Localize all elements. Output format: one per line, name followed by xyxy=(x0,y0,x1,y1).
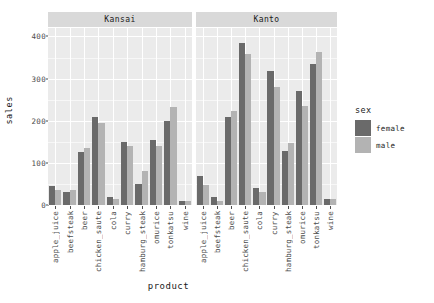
bar xyxy=(170,107,176,205)
bar xyxy=(231,111,237,205)
x-tick-label: tonkatsu xyxy=(312,211,321,283)
bar xyxy=(245,54,251,205)
bar xyxy=(217,201,223,205)
x-tick-mark xyxy=(55,206,56,209)
x-tick-mark xyxy=(288,206,289,209)
legend-swatch-male xyxy=(355,137,371,153)
legend-title: sex xyxy=(355,105,405,115)
x-tick-mark xyxy=(156,206,157,209)
x-tick-label: beer xyxy=(80,211,89,283)
chart-root: sales product 0100200300400 Kansai Kanto… xyxy=(0,0,434,303)
x-tick-label: tonkatsu xyxy=(166,211,175,283)
bar xyxy=(156,146,162,205)
x-tick-mark xyxy=(302,206,303,209)
panel-kansai xyxy=(48,28,192,205)
x-tick-mark xyxy=(185,206,186,209)
bar xyxy=(84,148,90,205)
x-tick-label: chicken_saute xyxy=(94,211,103,283)
y-tick-label: 400 xyxy=(12,32,46,41)
x-tick-label: curry xyxy=(123,211,132,283)
x-tick-mark xyxy=(231,206,232,209)
bar xyxy=(274,87,280,205)
x-tick-label: wine xyxy=(181,211,190,283)
facet-strip-label: Kanto xyxy=(253,15,279,24)
x-tick-label: cola xyxy=(109,211,118,283)
x-tick-label: hamburg_steak xyxy=(284,211,293,283)
facet-strip-label: Kansai xyxy=(104,15,135,24)
bar-group-container xyxy=(196,28,337,205)
x-tick-label: beefsteak xyxy=(213,211,222,283)
x-tick-label: omurice xyxy=(152,211,161,283)
x-tick-label: chicken_saute xyxy=(241,211,250,283)
x-tick-label: apple_juice xyxy=(199,211,208,283)
x-tick-mark xyxy=(245,206,246,209)
x-tick-mark xyxy=(113,206,114,209)
x-tick-mark xyxy=(217,206,218,209)
x-tick-mark xyxy=(127,206,128,209)
x-tick-mark xyxy=(142,206,143,209)
x-tick-label: beer xyxy=(227,211,236,283)
x-tick-mark xyxy=(84,206,85,209)
x-tick-label: omurice xyxy=(298,211,307,283)
x-tick-mark xyxy=(259,206,260,209)
x-tick-label: curry xyxy=(270,211,279,283)
y-tick-label: 300 xyxy=(12,74,46,83)
bar xyxy=(127,146,133,205)
legend-label-male: male xyxy=(376,141,395,150)
legend-swatch-female xyxy=(355,120,371,136)
facet-strip-kansai: Kansai xyxy=(48,12,192,27)
y-tick-label: 0 xyxy=(12,201,46,210)
y-tick-label: 100 xyxy=(12,158,46,167)
legend-item-male[interactable]: male xyxy=(355,137,405,153)
y-tick-label: 200 xyxy=(12,116,46,125)
bar xyxy=(288,143,294,205)
x-tick-label: hamburg_steak xyxy=(138,211,147,283)
legend: sex female male xyxy=(355,105,405,154)
bar xyxy=(55,190,61,205)
bar xyxy=(203,185,209,205)
x-tick-label: wine xyxy=(326,211,335,283)
x-tick-label: cola xyxy=(255,211,264,283)
bar xyxy=(330,199,336,205)
bar xyxy=(316,52,322,205)
legend-item-female[interactable]: female xyxy=(355,120,405,136)
y-axis-ticks: 0100200300400 xyxy=(8,0,46,303)
x-tick-mark xyxy=(170,206,171,209)
x-tick-mark xyxy=(203,206,204,209)
x-tick-label: beefsteak xyxy=(66,211,75,283)
bar xyxy=(259,192,265,205)
panel-kanto xyxy=(196,28,337,205)
x-tick-label: apple_juice xyxy=(51,211,60,283)
bar xyxy=(142,171,148,205)
bar xyxy=(98,123,104,205)
x-tick-mark xyxy=(330,206,331,209)
x-tick-mark xyxy=(316,206,317,209)
bar xyxy=(70,190,76,205)
x-tick-mark xyxy=(274,206,275,209)
bar xyxy=(113,199,119,205)
x-tick-mark xyxy=(70,206,71,209)
legend-label-female: female xyxy=(376,124,405,133)
bar-group-container xyxy=(48,28,192,205)
bar xyxy=(185,201,191,205)
facet-strip-kanto: Kanto xyxy=(196,12,337,27)
bar xyxy=(302,106,308,205)
x-tick-mark xyxy=(98,206,99,209)
